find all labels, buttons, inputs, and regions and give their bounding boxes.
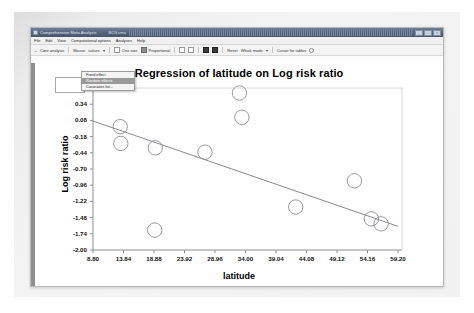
menu-bar: File Edit View Computational options Ana… <box>31 37 443 45</box>
values-label: values <box>88 48 100 53</box>
close-button[interactable]: × <box>433 30 441 36</box>
proportional-control[interactable]: Proportional <box>141 47 171 53</box>
back-arrow-icon[interactable]: ← <box>34 48 38 53</box>
data-point[interactable] <box>148 223 162 237</box>
regression-chart: Regression of latitude on Log risk ratio… <box>35 63 443 286</box>
toolbar-separator-3 <box>174 47 175 53</box>
y-tick-label: -0.70 <box>47 165 87 172</box>
toolbar-separator-2 <box>109 47 110 53</box>
y-tick-label: -1.48 <box>47 214 87 221</box>
window-controls: _ □ × <box>415 30 443 36</box>
toolbar: ← Core analysis Mouse values ▾ One size … <box>31 45 443 56</box>
y-tick-label: -0.18 <box>47 133 87 140</box>
document-title: BCG.cma <box>109 30 126 35</box>
application-window: Comprehensive Meta Analysis BCG.cma _ □ … <box>30 27 444 287</box>
color-swatch-icon-b[interactable] <box>212 47 218 53</box>
marker-style-icon-b[interactable] <box>188 47 194 53</box>
screen: Comprehensive Meta Analysis BCG.cma _ □ … <box>0 0 474 313</box>
data-point[interactable] <box>114 136 128 150</box>
y-tick-label: -1.74 <box>47 230 87 237</box>
cursor-for-tables-label[interactable]: Cursor for tables <box>277 48 307 53</box>
data-point[interactable] <box>289 200 303 214</box>
title-bar-texture <box>129 29 412 36</box>
menu-item-help[interactable]: Help <box>137 38 145 43</box>
one-size-control[interactable]: One size <box>114 47 138 53</box>
toolbar-separator-5 <box>222 47 223 53</box>
chevron-down-icon[interactable]: ▾ <box>103 48 105 53</box>
x-tick-label: 59.20 <box>378 255 418 262</box>
one-size-icon[interactable] <box>114 47 120 53</box>
app-icon <box>33 30 38 35</box>
menu-item-computational-options[interactable]: Computational options <box>71 38 111 43</box>
data-point[interactable] <box>198 145 212 159</box>
y-tick-label: -1.22 <box>47 197 87 204</box>
menu-item-edit[interactable]: Edit <box>45 38 52 43</box>
menu-item-file[interactable]: File <box>34 38 40 43</box>
data-point[interactable] <box>347 174 361 188</box>
color-swatch-icon-a[interactable] <box>203 47 209 53</box>
one-size-label: One size <box>122 48 138 53</box>
y-tick-label: -0.96 <box>47 181 87 188</box>
window-title: Comprehensive Meta Analysis <box>40 30 97 35</box>
maximize-button[interactable]: □ <box>424 30 432 36</box>
data-point[interactable] <box>113 119 127 133</box>
core-analysis-control[interactable]: ← Core analysis <box>34 48 64 53</box>
data-point[interactable] <box>235 110 249 124</box>
reset-label[interactable]: Reset <box>227 48 237 53</box>
menu-item-analyses[interactable]: Analyses <box>116 38 132 43</box>
y-tick-label: -2.00 <box>47 246 87 253</box>
refresh-icon[interactable] <box>309 48 314 53</box>
plot-canvas <box>35 63 443 286</box>
minimize-button[interactable]: _ <box>415 30 423 36</box>
y-tick-label: 0.08 <box>47 116 87 123</box>
proportional-label: Proportional <box>149 48 171 53</box>
y-tick-label: 0.34 <box>47 100 87 107</box>
menu-item-view[interactable]: View <box>57 38 66 43</box>
title-bar: Comprehensive Meta Analysis BCG.cma _ □ … <box>31 28 443 37</box>
toolbar-separator <box>68 47 69 53</box>
menu-option-covariates-list[interactable]: Covariates list... <box>82 84 134 90</box>
chevron-down-icon-2[interactable]: ▾ <box>266 48 268 53</box>
x-axis-label: latitude <box>35 271 443 281</box>
whisk-mode-label[interactable]: Whisk mode <box>241 48 263 53</box>
title-bar-left: Comprehensive Meta Analysis BCG.cma <box>31 30 126 35</box>
marker-style-icon-a[interactable] <box>179 47 185 53</box>
toolbar-separator-6 <box>272 47 273 53</box>
mouse-label: Mouse <box>73 48 85 53</box>
core-analysis-label: Core analysis <box>40 48 64 53</box>
y-tick-label: -0.44 <box>47 149 87 156</box>
toolbar-separator-4 <box>198 47 199 53</box>
proportional-icon[interactable] <box>141 47 147 53</box>
computational-options-menu[interactable]: Fixed effect Random effects Covariates l… <box>81 71 135 91</box>
